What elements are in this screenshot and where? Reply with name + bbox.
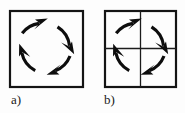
figure-container: a) b) — [0, 0, 185, 113]
panel-b-right-arrow — [152, 27, 169, 54]
panel-b-top-left-arrow — [116, 19, 142, 34]
panel-b-bottom-right-arrow — [141, 56, 164, 75]
panel-b-label: b) — [104, 93, 115, 106]
panel-a-top-left-arrow — [22, 19, 48, 34]
panel-b — [105, 11, 176, 87]
panel-a-bottom-right-arrow — [47, 56, 70, 75]
panel-a — [10, 11, 83, 87]
panel-a-label: a) — [11, 93, 21, 106]
panel-a-right-arrow — [58, 27, 75, 54]
panel-a-arrow-group — [19, 19, 74, 75]
panel-b-left-arrow — [113, 44, 129, 71]
rotation-diagram-svg — [0, 0, 185, 113]
panel-a-left-arrow — [19, 44, 35, 71]
